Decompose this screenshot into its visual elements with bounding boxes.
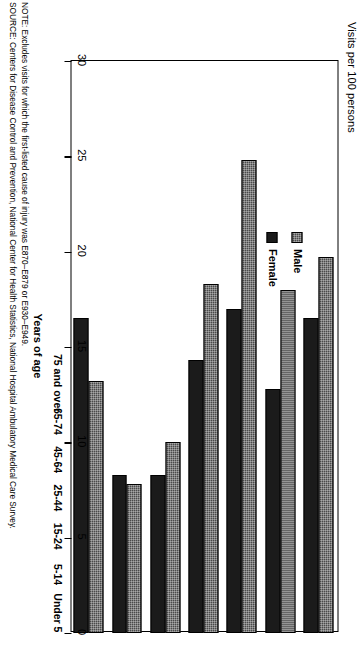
note-line: NOTE: Excludes visits for which the firs…: [18, 2, 30, 662]
y-axis-tick-label: 25: [75, 149, 87, 161]
bar-male-65-74[interactable]: [126, 484, 141, 633]
bar-chart-figure: Visits per 100 persons 051015202530Under…: [0, 0, 363, 666]
y-axis-tick-label: 15: [75, 340, 87, 352]
y-axis-tick: [64, 156, 71, 157]
y-axis-tick: [64, 61, 71, 62]
bar-female-under-5[interactable]: [303, 318, 318, 633]
y-axis-tick-label: 20: [75, 245, 87, 257]
legend-label-male: Male: [291, 249, 303, 273]
y-axis-tick: [64, 442, 71, 443]
legend-item-female[interactable]: Female: [266, 232, 278, 287]
plot-area: [70, 60, 338, 632]
x-axis-category-label: 15-24: [51, 523, 63, 550]
bar-female-65-74[interactable]: [112, 475, 127, 633]
y-axis-tick: [64, 347, 71, 348]
bar-male-under-5[interactable]: [318, 257, 333, 633]
y-axis-tick-label: 5: [75, 534, 87, 540]
x-axis-category-label: 75 and over: [51, 354, 63, 412]
bar-female-45-64[interactable]: [150, 475, 165, 633]
x-axis-category-label: 5-14: [51, 564, 63, 585]
x-axis-category-label: Under 5: [51, 593, 63, 632]
y-axis-tick: [64, 252, 71, 253]
legend-swatch-male-icon: [292, 232, 303, 243]
legend: Male Female: [266, 232, 303, 287]
source-line: SOURCE: Centers for Disease Control and …: [6, 2, 18, 662]
x-axis-category-label: 25-44: [51, 485, 63, 512]
bar-female-25-44[interactable]: [188, 360, 203, 633]
y-axis-tick-label: 30: [75, 54, 87, 66]
legend-item-male[interactable]: Male: [291, 232, 303, 287]
bar-male-5-14[interactable]: [280, 290, 295, 633]
bar-male-75-and-over[interactable]: [88, 381, 103, 633]
y-axis-tick-label: 0: [75, 629, 87, 635]
y-axis-title: Visits per 100 persons: [345, 22, 357, 133]
x-axis-title: Years of age: [31, 314, 43, 379]
bar-female-75-and-over[interactable]: [73, 318, 88, 633]
bar-female-15-24[interactable]: [226, 309, 241, 633]
x-axis-category-label: 45-64: [51, 446, 63, 473]
bar-male-15-24[interactable]: [241, 160, 256, 633]
legend-label-female: Female: [266, 249, 278, 287]
rotated-chart-stage: Visits per 100 persons 051015202530Under…: [0, 0, 363, 666]
bar-male-25-44[interactable]: [203, 284, 218, 633]
footnotes: NOTE: Excludes visits for which the firs…: [6, 2, 29, 662]
legend-swatch-female-icon: [267, 232, 278, 243]
bar-female-5-14[interactable]: [265, 389, 280, 633]
y-axis-tick-label: 10: [75, 435, 87, 447]
y-axis-tick: [64, 633, 71, 634]
y-axis-tick: [64, 538, 71, 539]
bar-male-45-64[interactable]: [165, 442, 180, 633]
